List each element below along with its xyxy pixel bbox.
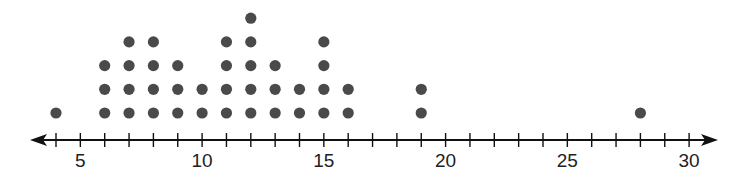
data-dot: [318, 84, 329, 95]
data-dot: [221, 60, 232, 71]
data-dot: [123, 84, 134, 95]
data-dot: [245, 107, 256, 118]
data-dots: [50, 13, 646, 119]
data-dot: [245, 84, 256, 95]
data-dot: [318, 60, 329, 71]
tick-label: 10: [192, 150, 213, 171]
dot-plot-canvas: 51015202530: [0, 0, 733, 187]
data-dot: [416, 84, 427, 95]
data-dot: [245, 60, 256, 71]
data-dot: [221, 107, 232, 118]
tick-label: 5: [75, 150, 86, 171]
tick-label: 30: [679, 150, 700, 171]
data-dot: [318, 107, 329, 118]
dot-plot: 51015202530: [0, 0, 733, 187]
data-dot: [148, 36, 159, 47]
data-dot: [245, 36, 256, 47]
data-dot: [148, 84, 159, 95]
data-dot: [270, 84, 281, 95]
data-dot: [197, 84, 208, 95]
data-dot: [172, 60, 183, 71]
data-dot: [148, 107, 159, 118]
data-dot: [99, 84, 110, 95]
data-dot: [343, 84, 354, 95]
data-dot: [416, 107, 427, 118]
data-dot: [197, 107, 208, 118]
data-dot: [148, 60, 159, 71]
data-dot: [172, 107, 183, 118]
data-dot: [99, 107, 110, 118]
data-dot: [245, 13, 256, 24]
data-dot: [270, 107, 281, 118]
data-dot: [50, 107, 61, 118]
data-dot: [318, 36, 329, 47]
data-dot: [172, 84, 183, 95]
data-dot: [270, 60, 281, 71]
data-dot: [221, 36, 232, 47]
tick-labels: 51015202530: [75, 150, 700, 171]
data-dot: [221, 84, 232, 95]
data-dot: [123, 107, 134, 118]
data-dot: [294, 107, 305, 118]
number-line-axis: [30, 134, 718, 146]
data-dot: [635, 107, 646, 118]
data-dot: [99, 60, 110, 71]
data-dot: [343, 107, 354, 118]
data-dot: [123, 60, 134, 71]
data-dot: [294, 84, 305, 95]
tick-label: 15: [313, 150, 334, 171]
data-dot: [123, 36, 134, 47]
tick-label: 20: [435, 150, 456, 171]
tick-label: 25: [557, 150, 578, 171]
